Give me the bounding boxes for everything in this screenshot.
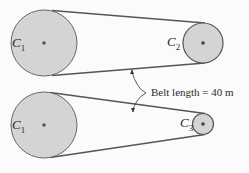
label-c1-bottom: C1 bbox=[12, 117, 25, 135]
label-c3: C3 bbox=[180, 115, 193, 133]
label-c2: C2 bbox=[167, 34, 180, 52]
top-belt-system bbox=[11, 10, 223, 76]
belt-length-annotation: Belt length = 40 m bbox=[151, 86, 234, 98]
belt-pulley-diagram: C1 C2 C1 C3 Belt length = 40 m bbox=[0, 0, 249, 173]
label-c1-top: C1 bbox=[12, 35, 25, 53]
